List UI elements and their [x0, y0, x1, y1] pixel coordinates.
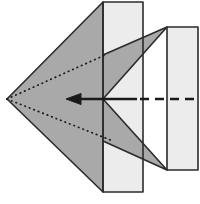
origami-diagram-container — [0, 0, 200, 204]
center-light-strip — [103, 2, 143, 192]
origami-figure — [0, 0, 200, 204]
